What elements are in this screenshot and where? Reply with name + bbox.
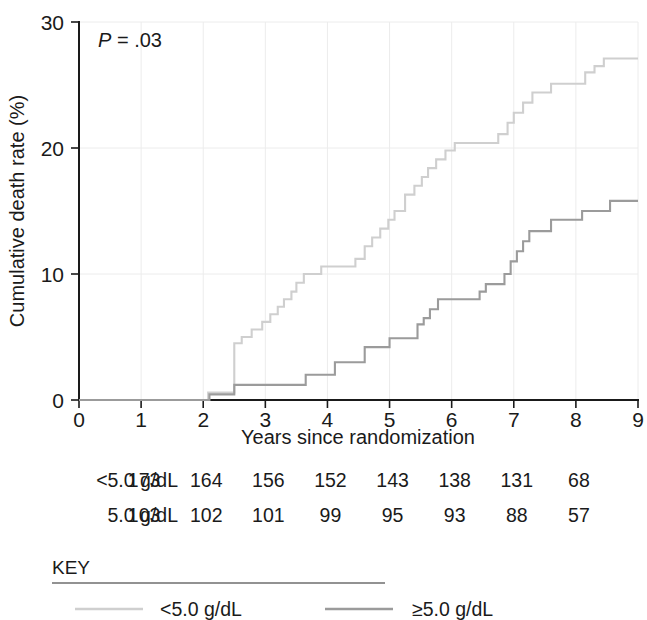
risk-value-r1-c5: 93: [444, 504, 466, 526]
x-tick-label-0: 0: [73, 408, 85, 431]
x-tick-label-7: 7: [508, 408, 520, 431]
series-curve-1: [79, 201, 638, 400]
risk-value-r1-c3: 99: [320, 504, 342, 526]
axes-group: [79, 22, 638, 400]
y-tick-label-0: 0: [52, 389, 64, 412]
x-tick-label-9: 9: [632, 408, 644, 431]
y-axis-title: Cumulative death rate (%): [6, 95, 28, 327]
key-label-1: ≥5.0 g/dL: [412, 598, 493, 620]
risk-value-r0-c7: 68: [568, 469, 590, 491]
x-axis-ticks: [79, 400, 638, 408]
risk-value-r1-c1: 102: [190, 504, 223, 526]
y-tick-label-10: 10: [41, 263, 64, 286]
x-tick-label-1: 1: [135, 408, 147, 431]
key-title: KEY: [52, 557, 90, 578]
series-curve-0: [79, 59, 638, 400]
risk-value-r0-c1: 164: [190, 469, 223, 491]
p-value-symbol: P: [98, 29, 112, 51]
risk-value-r0-c5: 138: [438, 469, 471, 491]
risk-value-r0-c0: 173: [128, 469, 161, 491]
risk-value-r0-c3: 152: [314, 469, 347, 491]
key-label-0: <5.0 g/dL: [160, 598, 242, 620]
x-tick-label-2: 2: [197, 408, 209, 431]
x-tick-label-8: 8: [570, 408, 582, 431]
key-entries-group: <5.0 g/dL≥5.0 g/dL: [75, 598, 493, 620]
risk-value-r1-c7: 57: [568, 504, 590, 526]
y-tick-label-30: 30: [41, 11, 64, 34]
risk-value-r1-c4: 95: [382, 504, 404, 526]
y-tick-label-20: 20: [41, 137, 64, 160]
p-value-text: = .03: [111, 29, 162, 51]
risk-value-r1-c2: 101: [252, 504, 285, 526]
risk-value-r1-c6: 88: [506, 504, 528, 526]
figure-container: 0102030 0123456789 P = .03 Years since r…: [0, 0, 647, 620]
series-curves-group: [79, 59, 638, 400]
y-axis-tick-labels: 0102030: [41, 11, 64, 412]
p-value-annotation: P = .03: [98, 29, 162, 51]
risk-value-r0-c2: 156: [252, 469, 285, 491]
risk-value-r1-c0: 103: [128, 504, 161, 526]
risk-value-r0-c6: 131: [501, 469, 534, 491]
y-axis-ticks: [71, 22, 79, 400]
numbers-at-risk-table: <5.0 g/dL173164156152143138131685.0 g/dL…: [96, 469, 590, 526]
kaplan-meier-chart: 0102030 0123456789 P = .03 Years since r…: [0, 0, 647, 620]
risk-value-r0-c4: 143: [376, 469, 409, 491]
gridlines-group: [79, 22, 638, 400]
key-legend: KEY <5.0 g/dL≥5.0 g/dL: [52, 557, 493, 620]
x-axis-title: Years since randomization: [241, 426, 475, 448]
